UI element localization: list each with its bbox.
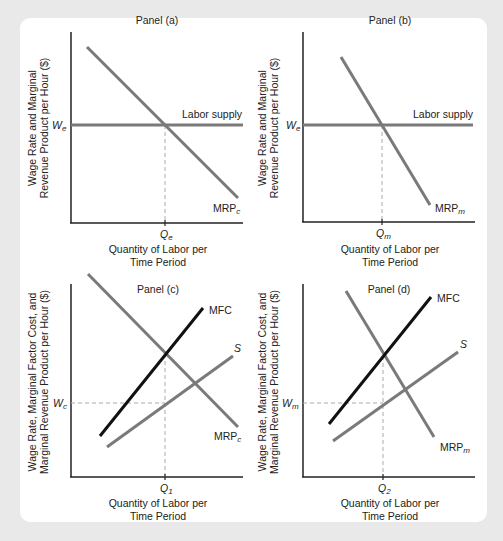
panel-d-xlabel-1: Quantity of Labor per (341, 497, 440, 509)
panel-c-ylabel-1: Wage Rate, Marginal Factor Cost, and (26, 292, 38, 471)
panel-d-wage-label: Wm (282, 397, 299, 411)
panel-d-q-label: Q2 (378, 482, 391, 496)
panel-a-ylabel-2: Revenue Product per Hour ($) (38, 58, 50, 199)
panel-b-wage-label: We (286, 119, 301, 133)
panel-b-supply-label: Labor supply (413, 108, 474, 120)
panel-b-mrp-label: MRPm (435, 202, 465, 216)
panel-d-mfc-label: MFC (437, 292, 460, 304)
panel-a-mrp-label: MRPc (213, 202, 240, 216)
panel-c-q-label: Q1 (160, 482, 173, 496)
panel-b-xlabel-2: Time Period (362, 256, 418, 268)
panel-d-mrp-label: MRPm (440, 441, 470, 455)
panel-b-xlabel-1: Quantity of Labor per (341, 243, 440, 255)
panel-a-wage-label: We (52, 119, 67, 133)
panel-d-xlabel-2: Time Period (362, 510, 418, 522)
panel-a-supply-label: Labor supply (182, 108, 243, 120)
panel-c-mrp-label: MRPc (214, 430, 241, 444)
panel-c-mrp-line (88, 274, 238, 427)
panel-b-ylabel-1: Wage Rate and Marginal (256, 70, 268, 186)
panel-c-mfc-line (100, 308, 203, 436)
panel-a-title: Panel (a) (136, 14, 179, 26)
panel-c-xlabel-1: Quantity of Labor per (109, 497, 208, 509)
panel-c-s-label: S (234, 342, 241, 354)
panel-d-mrp-line (346, 291, 434, 437)
panel-c-wage-label: Wc (53, 397, 67, 411)
panel-a-xlabel-1: Quantity of Labor per (109, 243, 208, 255)
figure-svg: Panel (a) Labor supply MRPc We Qe Quanti… (0, 0, 503, 541)
panel-c-xlabel-2: Time Period (130, 510, 186, 522)
panel-d-ylabel-1: Wage Rate, Marginal Factor Cost, and (256, 292, 268, 471)
panel-b-mrp-line (341, 57, 430, 205)
panel-a-ylabel-1: Wage Rate and Marginal (26, 70, 38, 186)
panel-d-ylabel-2: Marginal Revenue Product per Hour ($) (268, 290, 280, 474)
panel-a-mrp-line (87, 47, 238, 198)
panel-c-title: Panel (c) (137, 283, 179, 295)
panel-b-ylabel-2: Revenue Product per Hour ($) (268, 58, 280, 199)
panel-b-q-label: Qm (376, 227, 391, 241)
panel-c-mfc-label: MFC (209, 304, 232, 316)
panel-b-title: Panel (b) (369, 14, 412, 26)
panel-d-s-label: S (460, 338, 467, 350)
panel-a-q-label: Qe (160, 228, 173, 242)
panel-a: Panel (a) Labor supply MRPc We Qe Quanti… (26, 14, 243, 268)
panel-b: Panel (b) Labor supply MRPm We Qm Quanti… (256, 14, 475, 268)
panel-c-ylabel-2: Marginal Revenue Product per Hour ($) (38, 290, 50, 474)
panel-a-xlabel-2: Time Period (130, 256, 186, 268)
panel-c: Panel (c) MFC S MRPc Wc Q1 Quantity of L… (26, 274, 243, 522)
panel-d-title: Panel (d) (368, 283, 411, 295)
panel-d: Panel (d) MFC S MRPm Wm Q2 Quantity of L… (256, 283, 475, 522)
